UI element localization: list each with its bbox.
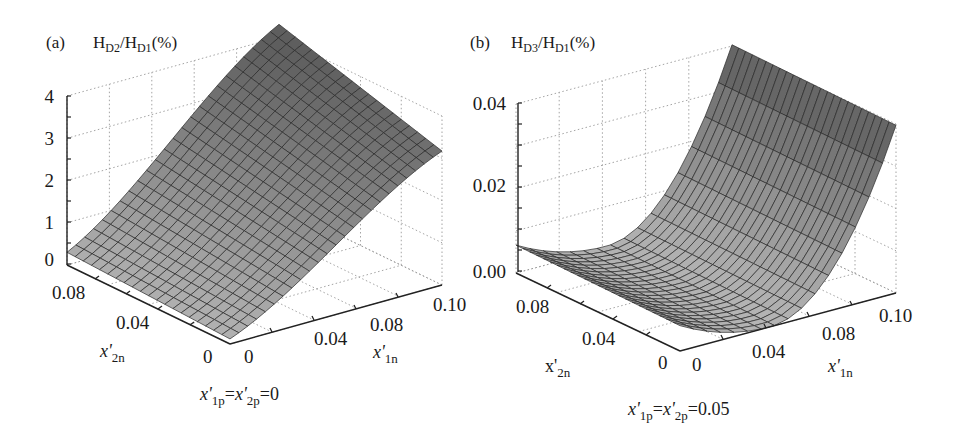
panel-a-z-tick-3: 3 xyxy=(45,128,55,149)
panel-a-z-tick-2: 2 xyxy=(45,170,55,191)
panel-b-title: HD3/HD1(%) xyxy=(511,33,595,55)
panel-b-y-axis-name: x'2n xyxy=(545,356,571,380)
panel-b-x-tick-010: 0.10 xyxy=(879,305,912,326)
panel-a-title: HD2/HD1(%) xyxy=(93,33,177,55)
panel-b: (b) HD3/HD1(%) 0.04 0.02 0.00 0.08 0.04 … xyxy=(470,33,912,423)
panel-a-x-tick-010: 0.10 xyxy=(433,294,466,315)
panel-a-y-axis-name: x'2n xyxy=(99,341,125,365)
panel-a: (a) HD2/HD1(%) 4 3 2 1 0 0.08 0.04 0 x'2… xyxy=(45,24,467,408)
panel-b-surface xyxy=(516,45,896,333)
panel-a-x-tick-0: 0 xyxy=(244,346,254,367)
panel-b-z-tick-000: 0.00 xyxy=(473,261,506,282)
panel-b-condition: x'1p=x'2p=0.05 xyxy=(627,399,730,423)
panel-b-z-tick-004: 0.04 xyxy=(473,93,507,114)
panel-b-x-tick-008: 0.08 xyxy=(822,323,855,344)
figure-canvas: (a) HD2/HD1(%) 4 3 2 1 0 0.08 0.04 0 x'2… xyxy=(0,0,954,442)
panel-b-x-tick-0: 0 xyxy=(692,354,702,375)
panel-a-y-tick-0: 0 xyxy=(203,346,213,367)
panel-a-z-tick-1: 1 xyxy=(45,212,55,233)
panel-b-y-tick-004: 0.04 xyxy=(582,328,616,349)
panel-a-x-tick-004: 0.04 xyxy=(314,328,348,349)
panel-b-z-tick-002: 0.02 xyxy=(473,175,506,196)
panel-a-y-tick-008: 0.08 xyxy=(52,282,85,303)
panel-b-x-axis-name: x'1n xyxy=(827,356,853,380)
panel-a-z-tick-0: 0 xyxy=(45,249,55,270)
panel-a-y-tick-004: 0.04 xyxy=(116,312,150,333)
panel-b-x-tick-004: 0.04 xyxy=(752,341,786,362)
panel-a-label: (a) xyxy=(46,33,65,52)
panel-b-y-tick-008: 0.08 xyxy=(516,296,549,317)
panel-a-condition: x'1p=x'2p=0 xyxy=(199,384,279,408)
panel-a-z-tick-4: 4 xyxy=(45,86,55,107)
panel-a-x-tick-008: 0.08 xyxy=(370,314,403,335)
panel-b-y-tick-0: 0 xyxy=(658,352,668,373)
panel-b-label: (b) xyxy=(470,33,490,52)
panel-a-x-axis-name: x'1n xyxy=(372,342,398,366)
